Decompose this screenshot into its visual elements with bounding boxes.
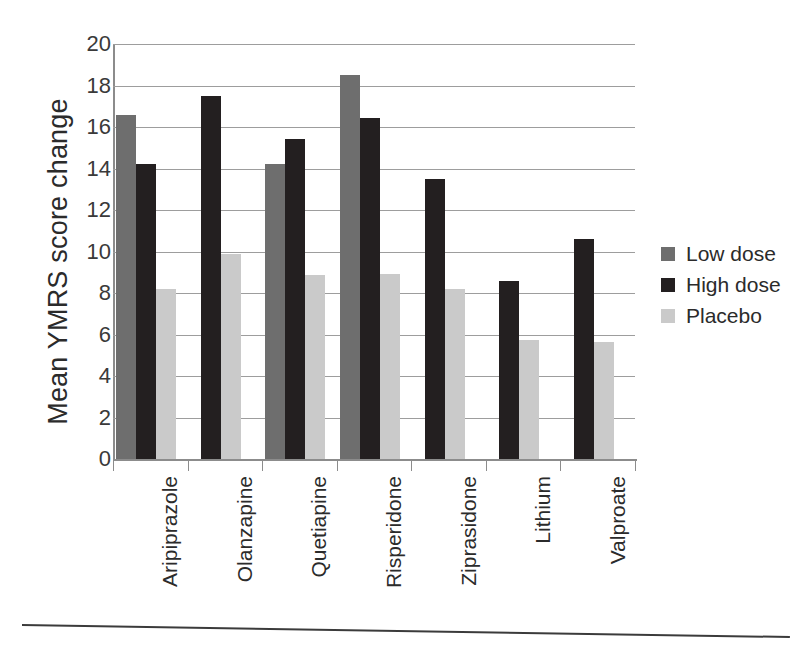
- bar-high-dose: [360, 118, 380, 459]
- y-axis-tick-label: 0: [67, 446, 111, 472]
- y-axis-tick-labels: 20181614121086420: [55, 0, 111, 648]
- x-axis-label-quetiapine: Quetiapine: [307, 476, 331, 578]
- bar-high-dose: [285, 139, 305, 459]
- legend-label: High dose: [686, 274, 781, 295]
- legend-item-high-dose: High dose: [661, 269, 801, 300]
- x-axis-tick-mark: [486, 460, 487, 471]
- bar-high-dose: [574, 239, 594, 459]
- bar-low-dose: [340, 75, 360, 459]
- x-axis-tick-mark: [635, 460, 636, 471]
- legend-swatch-icon: [661, 247, 675, 261]
- legend-item-placebo: Placebo: [661, 300, 801, 331]
- legend-label: Placebo: [686, 305, 762, 326]
- x-axis-label-valproate: Valproate: [606, 476, 630, 564]
- bar-high-dose: [201, 96, 221, 459]
- chart-legend: Low doseHigh dosePlacebo: [661, 238, 801, 331]
- bar-chart-figure: Mean YMRS score change 20181614121086420…: [0, 0, 804, 648]
- gridline: [113, 44, 635, 45]
- x-axis-line: [113, 459, 637, 461]
- x-axis-label-olanzapine: Olanzapine: [233, 476, 257, 582]
- y-axis-tick-label: 8: [67, 280, 111, 306]
- y-axis-tick-label: 12: [67, 197, 111, 223]
- bar-low-dose: [116, 115, 136, 459]
- y-axis-tick-label: 2: [67, 405, 111, 431]
- gridline: [113, 86, 635, 87]
- x-axis-tick-mark: [113, 460, 114, 471]
- bar-placebo: [519, 340, 539, 459]
- x-axis-label-lithium: Lithium: [531, 476, 555, 544]
- bar-low-dose: [265, 164, 285, 459]
- x-axis-tick-mark: [560, 460, 561, 471]
- bar-high-dose: [136, 164, 156, 459]
- plot-area: [113, 44, 635, 459]
- bar-high-dose: [425, 179, 445, 459]
- x-axis-tick-mark: [262, 460, 263, 471]
- x-axis-label-aripiprazole: Aripiprazole: [158, 476, 182, 587]
- x-axis-label-ziprasidone: Ziprasidone: [457, 476, 481, 586]
- legend-swatch-icon: [661, 278, 675, 292]
- y-axis-tick-label: 18: [67, 73, 111, 99]
- x-axis-tick-mark: [188, 460, 189, 471]
- y-axis-tick-label: 6: [67, 322, 111, 348]
- y-axis-tick-label: 14: [67, 156, 111, 182]
- bottom-divider-rule: [22, 624, 790, 638]
- bar-placebo: [156, 289, 176, 459]
- y-axis-tick-label: 16: [67, 114, 111, 140]
- bar-placebo: [221, 254, 241, 459]
- x-axis-tick-mark: [337, 460, 338, 471]
- y-axis-tick-label: 10: [67, 239, 111, 265]
- x-axis-tick-mark: [411, 460, 412, 471]
- x-axis-label-risperidone: Risperidone: [382, 476, 406, 588]
- bar-placebo: [594, 342, 614, 459]
- legend-swatch-icon: [661, 309, 675, 323]
- bar-high-dose: [499, 281, 519, 459]
- bar-placebo: [445, 289, 465, 459]
- legend-item-low-dose: Low dose: [661, 238, 801, 269]
- y-axis-tick-label: 20: [67, 31, 111, 57]
- bar-placebo: [305, 275, 325, 459]
- legend-label: Low dose: [686, 243, 776, 264]
- y-axis-tick-label: 4: [67, 363, 111, 389]
- bar-placebo: [380, 274, 400, 459]
